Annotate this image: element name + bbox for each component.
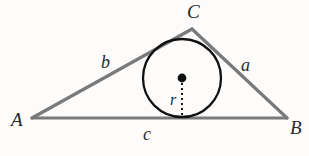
side-label-b: b xyxy=(101,53,110,71)
side-a-segment-CB xyxy=(192,29,287,118)
geometry-diagram: A B C b a c r xyxy=(0,0,309,156)
vertex-label-c: C xyxy=(187,2,200,21)
side-label-a: a xyxy=(241,56,250,74)
radius-label: r xyxy=(170,92,176,108)
vertex-label-a: A xyxy=(11,110,23,129)
diagram-canvas xyxy=(0,0,309,156)
incircle-center-dot xyxy=(178,74,187,83)
side-label-c: c xyxy=(143,125,151,143)
vertex-label-b: B xyxy=(290,118,302,137)
